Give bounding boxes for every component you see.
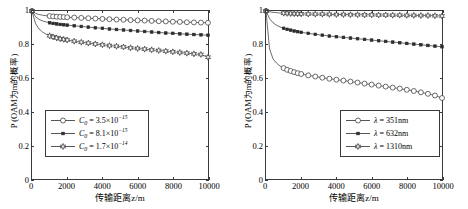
x-tick-mark xyxy=(301,10,302,13)
legend-entry: λ = 1310nm xyxy=(345,140,435,153)
y-tick-mark xyxy=(206,112,209,113)
y-tick-mark xyxy=(265,112,268,113)
y-tick-mark xyxy=(440,112,443,113)
x-tick-mark xyxy=(336,10,337,13)
x-tick-mark xyxy=(67,177,68,180)
y-tick-mark xyxy=(265,44,268,45)
x-tick-mark xyxy=(67,10,68,13)
legend-label: λ = 632nm xyxy=(371,129,408,138)
y-tick-label: 0.2 xyxy=(237,142,263,151)
x-tick-mark xyxy=(209,10,210,13)
x-tick-label: 4000 xyxy=(94,182,111,191)
y-tick-label: 0.4 xyxy=(237,108,263,117)
legend-entry: λ = 351nm xyxy=(345,114,435,127)
x-tick-label: 10000 xyxy=(432,182,453,191)
x-tick-mark xyxy=(443,10,444,13)
x-tick-mark xyxy=(31,177,32,180)
legend-entry: C0 = 1.7×10−14 xyxy=(50,140,144,153)
x-tick-mark xyxy=(138,177,139,180)
x-axis-label-right: 传输距离z/m xyxy=(265,191,443,204)
panel-left: P (OAM为m的概率) 传输距离z/m 00.20.40.60.8102000… xyxy=(0,0,234,209)
x-tick-mark xyxy=(443,177,444,180)
legend-label: C0 = 3.5×10−15 xyxy=(76,114,128,126)
y-tick-label: 0.4 xyxy=(3,108,29,117)
legend-entry: C0 = 3.5×10−15 xyxy=(50,114,144,127)
x-tick-mark xyxy=(138,10,139,13)
legend-marker-star xyxy=(50,141,76,152)
x-tick-mark xyxy=(102,10,103,13)
y-tick-mark xyxy=(206,44,209,45)
legend-label: C0 = 8.1×10−15 xyxy=(76,127,128,139)
y-tick-label: 0.8 xyxy=(3,40,29,49)
x-tick-label: 8000 xyxy=(165,182,182,191)
x-tick-label: 10000 xyxy=(198,182,219,191)
legend-left: C0 = 3.5×10−15C0 = 8.1×10−15C0 = 1.7×10−… xyxy=(45,110,149,157)
legend-marker-circle xyxy=(50,115,76,126)
y-tick-mark xyxy=(206,78,209,79)
x-axis-label-left: 传输距离z/m xyxy=(31,191,209,204)
x-tick-mark xyxy=(102,177,103,180)
x-tick-mark xyxy=(407,177,408,180)
y-tick-mark xyxy=(265,78,268,79)
y-tick-label: 0 xyxy=(3,176,29,185)
y-tick-mark xyxy=(31,112,34,113)
legend-marker-square xyxy=(50,128,76,139)
y-tick-label: 0.2 xyxy=(3,142,29,151)
y-tick-label: 0.8 xyxy=(237,40,263,49)
x-tick-mark xyxy=(31,10,32,13)
legend-right: λ = 351nmλ = 632nmλ = 1310nm xyxy=(340,110,440,157)
x-tick-mark xyxy=(173,177,174,180)
legend-label: λ = 351nm xyxy=(371,116,408,125)
x-tick-label: 6000 xyxy=(363,182,380,191)
y-tick-label: 0.6 xyxy=(3,74,29,83)
x-tick-label: 4000 xyxy=(328,182,345,191)
x-tick-mark xyxy=(173,10,174,13)
y-tick-label: 0 xyxy=(237,176,263,185)
y-tick-mark xyxy=(440,78,443,79)
y-tick-mark xyxy=(265,146,268,147)
y-tick-mark xyxy=(31,44,34,45)
x-tick-mark xyxy=(372,177,373,180)
x-tick-mark xyxy=(209,177,210,180)
figure-two-panel: P (OAM为m的概率) 传输距离z/m 00.20.40.60.8102000… xyxy=(0,0,468,209)
x-tick-label: 8000 xyxy=(399,182,416,191)
x-tick-mark xyxy=(265,177,266,180)
y-tick-mark xyxy=(31,146,34,147)
y-tick-mark xyxy=(440,146,443,147)
x-tick-label: 6000 xyxy=(129,182,146,191)
legend-marker-star xyxy=(345,141,371,152)
y-tick-label: 1 xyxy=(3,6,29,15)
y-tick-mark xyxy=(440,44,443,45)
y-tick-label: 1 xyxy=(237,6,263,15)
x-tick-mark xyxy=(265,10,266,13)
panel-right: P (OAM为m的概率) 传输距离z/m 00.20.40.60.8102000… xyxy=(234,0,468,209)
x-tick-label: 2000 xyxy=(58,182,75,191)
legend-marker-circle xyxy=(345,115,371,126)
legend-entry: C0 = 8.1×10−15 xyxy=(50,127,144,140)
x-tick-mark xyxy=(407,10,408,13)
legend-label: C0 = 1.7×10−14 xyxy=(76,140,128,152)
x-tick-mark xyxy=(301,177,302,180)
y-tick-mark xyxy=(206,146,209,147)
x-tick-mark xyxy=(372,10,373,13)
x-tick-label: 0 xyxy=(263,182,267,191)
y-tick-label: 0.6 xyxy=(237,74,263,83)
x-tick-mark xyxy=(336,177,337,180)
x-tick-label: 2000 xyxy=(292,182,309,191)
y-tick-mark xyxy=(31,78,34,79)
legend-marker-square xyxy=(345,128,371,139)
x-tick-label: 0 xyxy=(29,182,33,191)
legend-label: λ = 1310nm xyxy=(371,142,412,151)
legend-entry: λ = 632nm xyxy=(345,127,435,140)
